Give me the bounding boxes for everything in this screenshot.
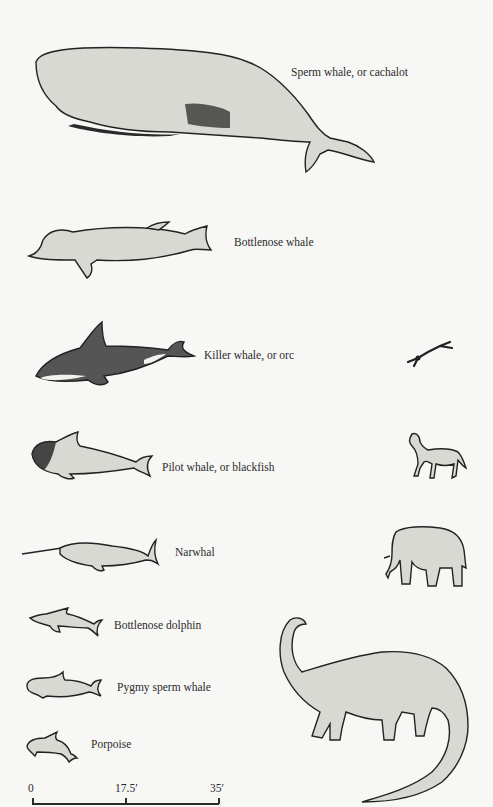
scale-tick-mid (125, 798, 127, 804)
elephant-figure (384, 526, 468, 588)
pygmy-sperm-whale-icon (27, 672, 101, 700)
sperm-whale-figure (30, 42, 380, 172)
narwhal-icon (22, 538, 158, 572)
sperm-whale-icon (30, 42, 380, 172)
pilot-whale-figure (30, 432, 152, 484)
bottlenose-dolphin-label: Bottlenose dolphin (114, 619, 201, 631)
killer-whale-label: Killer whale, or orc (204, 349, 294, 361)
scale-tick-max (218, 798, 220, 804)
bottlenose-dolphin-figure (30, 608, 102, 638)
brontosaurus-figure (272, 616, 472, 806)
human-swimmer-icon (406, 338, 458, 368)
sperm-whale-label: Sperm whale, or cachalot (291, 66, 408, 78)
bottlenose-dolphin-icon (30, 608, 102, 638)
horse-figure (406, 432, 468, 482)
scale-tick-label-0: 0 (28, 782, 34, 794)
pygmy-sperm-whale-label: Pygmy sperm whale (117, 681, 211, 693)
pilot-whale-label: Pilot whale, or blackfish (162, 461, 274, 473)
horse-icon (406, 432, 468, 482)
pilot-whale-icon (30, 432, 152, 484)
bottlenose-whale-label: Bottlenose whale (234, 236, 314, 248)
elephant-icon (384, 526, 468, 588)
scale-tick-label-max: 35′ (210, 782, 224, 794)
porpoise-figure (27, 732, 77, 762)
narwhal-label: Narwhal (175, 546, 215, 558)
killer-whale-icon (34, 320, 194, 388)
pygmy-sperm-whale-figure (27, 672, 101, 700)
scale-tick-0 (32, 798, 34, 804)
brontosaurus-icon (272, 616, 472, 806)
porpoise-label: Porpoise (91, 738, 131, 750)
scale-tick-label-mid: 17.5′ (115, 782, 138, 794)
porpoise-icon (27, 732, 77, 762)
narwhal-figure (22, 538, 158, 572)
human-figure (406, 338, 458, 368)
killer-whale-figure (34, 320, 194, 388)
bottlenose-whale-icon (27, 220, 222, 278)
bottlenose-whale-figure (27, 220, 222, 278)
